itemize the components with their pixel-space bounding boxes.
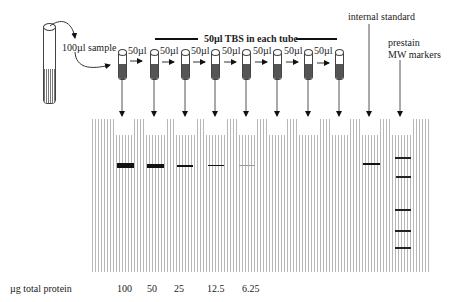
amount-12-5: 12.5 — [207, 283, 225, 294]
dilution-tube-4 — [211, 52, 220, 80]
amount-50: 50 — [147, 283, 157, 294]
band-12-5 — [208, 165, 224, 166]
transfer-label-1: 50µl — [128, 45, 147, 56]
band-6-25 — [239, 165, 255, 166]
markers-label-line1: prestain — [388, 37, 420, 48]
band-100 — [117, 163, 134, 168]
marker-band-1 — [395, 157, 411, 159]
well-6 — [268, 119, 287, 135]
internal-standard-label: internal standard — [348, 11, 415, 22]
well-1 — [115, 119, 134, 135]
marker-band-5 — [395, 247, 411, 249]
well-5 — [237, 119, 256, 135]
transfer-label-2: 50µl — [160, 45, 179, 56]
well-2 — [146, 119, 165, 135]
band-25 — [177, 165, 193, 167]
well-8 — [330, 119, 349, 135]
dilution-tube-1 — [118, 52, 127, 80]
dilution-tube-7 — [304, 52, 313, 80]
amount-25: 25 — [174, 283, 184, 294]
band-internal-standard — [363, 163, 380, 165]
well-4 — [206, 119, 225, 135]
band-50 — [147, 164, 164, 168]
row-label: µg total protein — [10, 283, 72, 294]
well-internal-standard — [360, 119, 379, 135]
well-markers — [392, 119, 411, 135]
dilution-tube-3 — [181, 52, 190, 80]
marker-band-4 — [395, 230, 411, 232]
transfer-label-5: 50µl — [253, 45, 272, 56]
transfer-label-7: 50µl — [314, 45, 333, 56]
transfer-label-4: 50µl — [222, 45, 241, 56]
well-7 — [299, 119, 318, 135]
stock-label: 100µl sample — [62, 42, 116, 53]
marker-band-3 — [395, 209, 411, 211]
tbs-label: 50µl TBS in each tube — [204, 33, 298, 44]
dilution-tube-2 — [150, 52, 159, 80]
well-3 — [176, 119, 195, 135]
dilution-tube-6 — [273, 52, 282, 80]
amount-100: 100 — [117, 283, 132, 294]
marker-band-2 — [396, 176, 411, 178]
gel — [92, 119, 430, 272]
dilution-tube-5 — [242, 52, 251, 80]
transfer-label-6: 50µl — [284, 45, 303, 56]
markers-label-line2: MW markers — [388, 49, 441, 60]
amount-6-25: 6.25 — [242, 283, 260, 294]
transfer-label-3: 50µl — [191, 45, 210, 56]
dilution-tube-8 — [335, 52, 344, 80]
